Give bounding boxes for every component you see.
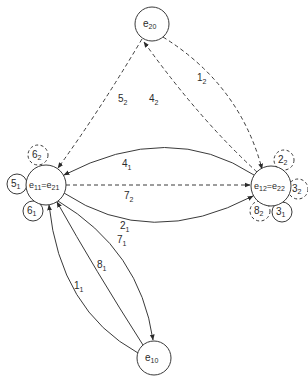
edge-1-2 (163, 37, 262, 169)
node-e20: e20 (135, 7, 169, 41)
loop-6-2: 62 (28, 145, 48, 165)
edge-label-1-1: 11 (74, 280, 84, 293)
edge-4-2 (144, 42, 257, 172)
node-e11-e21: e11=e21 (26, 165, 66, 205)
edge-label-5-2: 52 (118, 93, 128, 106)
loop-5-1: 51 (7, 174, 27, 194)
edge-label-8-1: 81 (97, 259, 107, 272)
edge-label-4-1: 41 (122, 158, 132, 171)
edge-2-1 (64, 193, 253, 222)
edge-labels: 52 42 12 41 72 21 71 81 11 (74, 72, 207, 293)
edge-label-1-2: 12 (197, 72, 207, 85)
state-diagram: 52 42 12 41 72 21 71 81 11 62 51 61 22 3… (0, 0, 308, 383)
node-e12-e22: e12=e22 (251, 166, 291, 206)
node-e10: e10 (137, 341, 171, 375)
edge-label-4-2: 42 (149, 93, 159, 106)
edge-8-1 (57, 202, 143, 345)
edges (49, 37, 262, 353)
edge-label-2-1: 21 (120, 220, 130, 233)
edge-4-1 (64, 148, 254, 176)
edge-label-7-2: 72 (124, 190, 134, 203)
edge-5-2 (58, 39, 142, 168)
edge-label-7-1: 71 (117, 234, 127, 247)
